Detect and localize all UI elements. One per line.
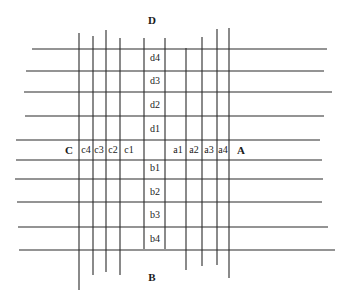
- cell-label-c4: c4: [81, 145, 90, 155]
- direction-label-b: B: [148, 272, 155, 283]
- cell-label-d2: d2: [150, 100, 160, 110]
- cell-label-a3: a3: [204, 145, 213, 155]
- cell-label-c2: c2: [108, 145, 117, 155]
- cell-label-d1: d1: [150, 124, 160, 134]
- cell-label-b3: b3: [150, 210, 160, 220]
- cell-label-b2: b2: [150, 187, 160, 197]
- cell-label-b1: b1: [150, 163, 160, 173]
- cell-label-a2: a2: [189, 145, 198, 155]
- cell-label-d3: d3: [150, 76, 160, 86]
- cell-label-a1: a1: [173, 145, 182, 155]
- cell-label-c1: c1: [124, 145, 133, 155]
- cell-label-d4: d4: [150, 53, 160, 63]
- cell-label-a4: a4: [218, 145, 227, 155]
- direction-label-a: A: [237, 145, 245, 156]
- direction-label-c: C: [65, 145, 73, 156]
- cell-label-c3: c3: [94, 145, 103, 155]
- direction-label-d: D: [148, 15, 156, 26]
- grid-diagram: DBCAd4d3d2d1c4c3c2c1a1a2a3a4b1b2b3b4: [0, 0, 348, 301]
- cell-label-b4: b4: [150, 234, 160, 244]
